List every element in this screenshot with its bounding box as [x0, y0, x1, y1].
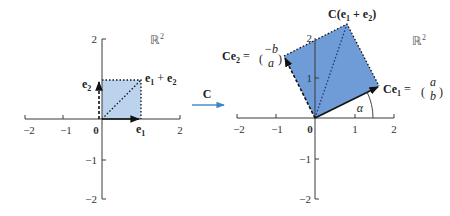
- y-tick-label: −2: [85, 193, 97, 205]
- svg-text:−b: −b: [264, 42, 278, 56]
- svg-text:): ): [439, 85, 443, 99]
- y-tick-label: 2: [92, 33, 98, 45]
- label-Ce1: Ce1 = ( a b ): [383, 75, 443, 103]
- svg-text:b: b: [430, 89, 436, 103]
- y-tick-label: 2: [307, 32, 313, 44]
- space-label-r2: ℝ2: [150, 32, 164, 47]
- x-tick-label: 1: [352, 123, 358, 135]
- y-tick-label: −2: [299, 193, 311, 205]
- label-C-e1-plus-e2: C(e1 + e2): [328, 7, 376, 23]
- svg-text:Ce2 =: Ce2 =: [222, 49, 250, 65]
- x-tick-label: −1: [60, 124, 72, 136]
- left-plot: −2 −1 0 2 2 −1 −2 e1 e2 e1 + e2 ℝ2: [23, 32, 183, 205]
- angle-label-alpha: α: [357, 101, 364, 115]
- svg-text:(: (: [421, 85, 425, 99]
- y-tick-label: 1: [307, 72, 313, 84]
- right-plot: −2 −1 0 1 2 2 1 −1 −2 α Ce1 = ( a b ) Ce…: [222, 7, 443, 205]
- x-tick-label: 0: [93, 124, 99, 136]
- transform-arrow: C: [192, 87, 224, 105]
- diagram-canvas: −2 −1 0 2 2 −1 −2 e1 e2 e1 + e2 ℝ2 C: [0, 0, 450, 216]
- svg-text:): ): [278, 52, 282, 66]
- y-tick-label: −1: [299, 153, 311, 165]
- angle-arc-alpha: [367, 92, 373, 118]
- label-Ce2: Ce2 = ( −b a ): [222, 42, 282, 70]
- x-tick-label: 2: [177, 124, 183, 136]
- transform-label: C: [203, 87, 212, 101]
- label-e1-plus-e2: e1 + e2: [145, 71, 176, 87]
- x-tick-label: −2: [233, 123, 245, 135]
- x-tick-label: 0: [307, 123, 313, 135]
- x-tick-label: 2: [391, 123, 397, 135]
- svg-text:a: a: [430, 75, 436, 89]
- space-label-r2: ℝ2: [412, 33, 426, 48]
- svg-text:(: (: [259, 52, 263, 66]
- label-e2: e2: [82, 77, 91, 93]
- label-e1: e1: [136, 122, 145, 138]
- y-tick-label: −1: [85, 154, 97, 166]
- x-tick-label: −1: [271, 123, 283, 135]
- svg-text:a: a: [268, 56, 274, 70]
- x-tick-label: −2: [23, 124, 35, 136]
- svg-text:Ce1 =: Ce1 =: [383, 82, 411, 98]
